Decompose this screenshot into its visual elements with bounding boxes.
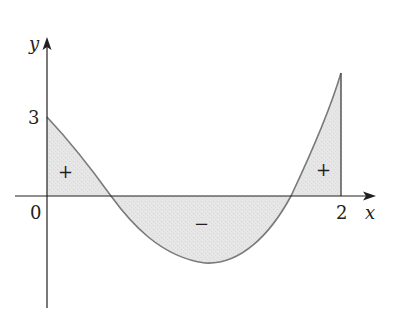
chart: y x 0 2 3 + − + <box>0 0 394 332</box>
x-axis-label: x <box>365 202 375 223</box>
positive-sign-right: + <box>316 159 331 180</box>
y-axis-label: y <box>28 33 40 54</box>
y-tick-3-label: 3 <box>28 107 39 128</box>
positive-sign-left: + <box>58 161 73 182</box>
negative-sign-middle: − <box>194 213 209 234</box>
x-tick-2-label: 2 <box>336 202 347 223</box>
origin-label: 0 <box>30 202 41 223</box>
